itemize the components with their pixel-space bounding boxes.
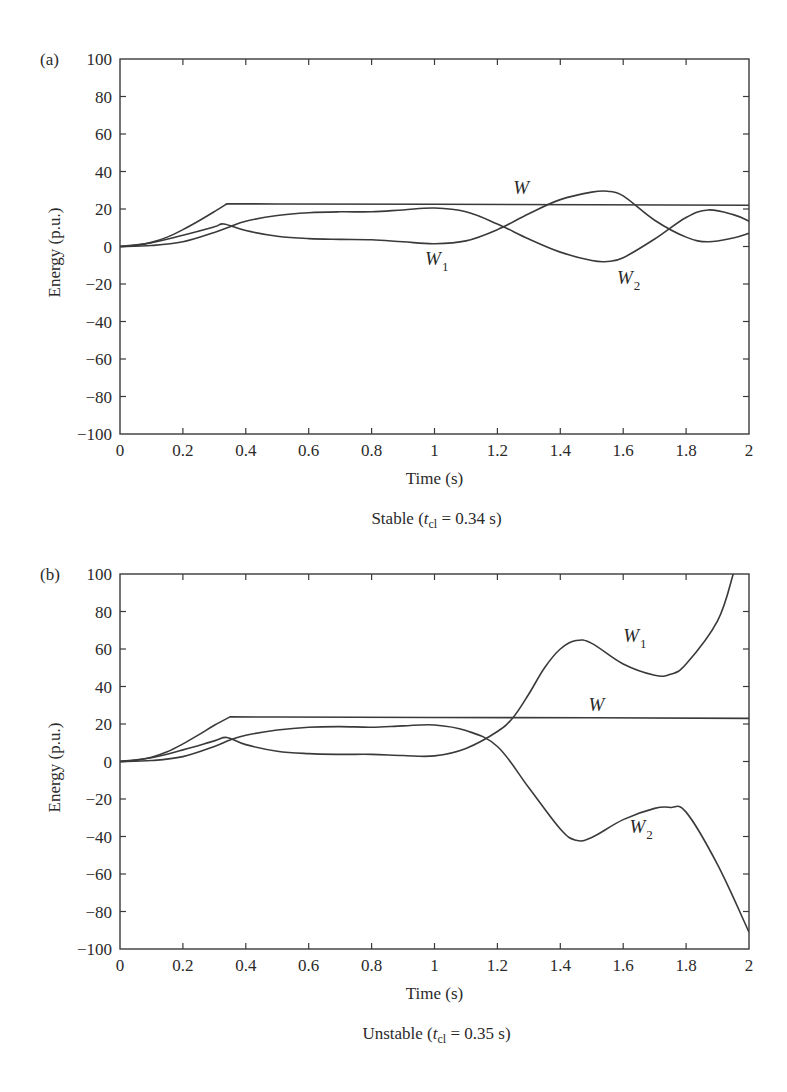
y-tick-label: 0 — [104, 238, 113, 257]
y-tick-label: 20 — [95, 715, 112, 734]
x-tick-label: 1.6 — [613, 441, 634, 460]
series-label-w: W — [589, 694, 607, 715]
x-tick-label: 1 — [430, 441, 439, 460]
y-tick-label: 60 — [95, 125, 112, 144]
figure: 00.20.40.60.811.21.41.61.82−100−80−60−40… — [0, 0, 787, 1092]
x-tick-label: 2 — [745, 956, 754, 975]
x-tick-label: 2 — [745, 441, 754, 460]
x-tick-label: 1.8 — [675, 956, 696, 975]
series-line-w — [120, 717, 749, 762]
panel-label: (a) — [40, 50, 59, 69]
x-tick-label: 1.6 — [613, 956, 634, 975]
y-axis-label: Energy (p.u.) — [45, 208, 64, 298]
x-tick-label: 0.6 — [298, 956, 319, 975]
panel-label: (b) — [40, 565, 60, 584]
chart-panel-b: 00.20.40.60.811.21.41.61.82−100−80−60−40… — [40, 565, 753, 1046]
x-tick-label: 0.8 — [361, 441, 382, 460]
y-tick-label: 80 — [95, 88, 112, 107]
series-label-w1: W1 — [623, 625, 646, 651]
x-axis-label: Time (s) — [406, 469, 463, 488]
chart-panel-a: 00.20.40.60.811.21.41.61.82−100−80−60−40… — [40, 50, 753, 531]
series-line-w — [120, 204, 749, 247]
series-line-w1 — [120, 574, 733, 762]
x-tick-label: 1.4 — [550, 441, 572, 460]
y-tick-label: −40 — [85, 828, 112, 847]
x-tick-label: 1.4 — [550, 956, 572, 975]
x-tick-label: 0.2 — [172, 441, 193, 460]
x-tick-label: 1.8 — [675, 441, 696, 460]
y-tick-label: −20 — [85, 275, 112, 294]
x-tick-label: 0.2 — [172, 956, 193, 975]
y-tick-label: −80 — [85, 903, 112, 922]
y-tick-label: 40 — [95, 678, 112, 697]
x-tick-label: 1 — [430, 956, 439, 975]
x-tick-label: 0.8 — [361, 956, 382, 975]
x-tick-label: 0.4 — [235, 956, 257, 975]
y-tick-label: 80 — [95, 603, 112, 622]
chart-caption: Stable (tcl = 0.34 s) — [371, 509, 501, 531]
y-tick-label: 20 — [95, 200, 112, 219]
x-tick-label: 1.2 — [487, 956, 508, 975]
x-tick-label: 0 — [116, 441, 125, 460]
series-label-w2: W2 — [629, 816, 652, 842]
series-label-w1: W1 — [425, 248, 448, 274]
y-tick-label: −100 — [77, 425, 112, 444]
plot-frame — [120, 574, 749, 949]
y-tick-label: −20 — [85, 790, 112, 809]
series-label-w2: W2 — [617, 267, 640, 293]
x-tick-label: 0.6 — [298, 441, 319, 460]
chart-caption: Unstable (tcl = 0.35 s) — [362, 1024, 510, 1046]
y-tick-label: 100 — [87, 50, 113, 69]
series-label-w: W — [513, 177, 531, 198]
x-tick-label: 1.2 — [487, 441, 508, 460]
series-group — [120, 574, 749, 932]
x-tick-label: 0.4 — [235, 441, 257, 460]
y-tick-label: −60 — [85, 865, 112, 884]
x-tick-label: 0 — [116, 956, 125, 975]
y-tick-label: −60 — [85, 350, 112, 369]
y-tick-label: 100 — [87, 565, 113, 584]
y-tick-label: 0 — [104, 753, 113, 772]
y-tick-label: −80 — [85, 388, 112, 407]
y-tick-label: −40 — [85, 313, 112, 332]
x-axis-label: Time (s) — [406, 984, 463, 1003]
plot-frame — [120, 59, 749, 434]
y-tick-label: 60 — [95, 640, 112, 659]
y-axis-label: Energy (p.u.) — [45, 723, 64, 813]
y-tick-label: 40 — [95, 163, 112, 182]
y-tick-label: −100 — [77, 940, 112, 959]
